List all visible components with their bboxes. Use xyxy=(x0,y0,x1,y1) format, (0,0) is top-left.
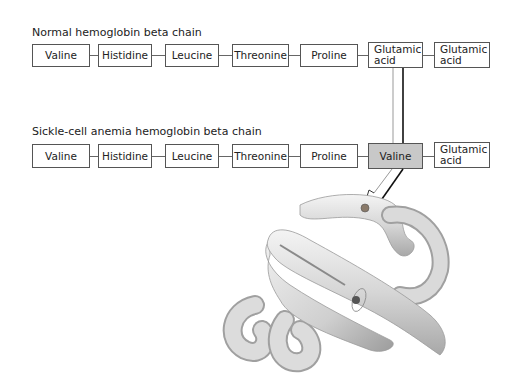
heme-iron xyxy=(352,296,360,304)
mutation-arrow-vertical xyxy=(393,68,403,143)
folded-protein-illustration xyxy=(233,194,446,362)
mutation-site-marker xyxy=(361,204,369,212)
arrows-and-protein xyxy=(0,0,514,379)
